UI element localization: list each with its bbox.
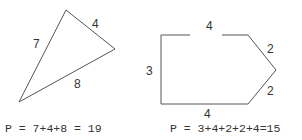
pentagon-side-top-label: 4 xyxy=(206,20,213,32)
triangle-side-bottom-label: 8 xyxy=(74,78,81,90)
pentagon-side-left-label: 3 xyxy=(146,65,153,77)
pentagon-perimeter-formula: P = 3+4+2+2+4=15 xyxy=(170,123,280,135)
pentagon-side-lower-right-label: 2 xyxy=(267,85,274,97)
triangle-side-left-label: 7 xyxy=(33,38,40,50)
pentagon-shape xyxy=(161,35,276,104)
pentagon-side-bottom-label: 4 xyxy=(204,108,211,120)
perimeter-diagram: 7 4 8 3 4 2 2 4 P = 7+4+8 = 19 P = 3+4+2… xyxy=(0,0,302,140)
triangle-perimeter-formula: P = 7+4+8 = 19 xyxy=(5,123,102,135)
pentagon-side-upper-right-label: 2 xyxy=(267,43,274,55)
triangle-shape xyxy=(19,10,115,102)
triangle-side-top-right-label: 4 xyxy=(92,18,99,30)
